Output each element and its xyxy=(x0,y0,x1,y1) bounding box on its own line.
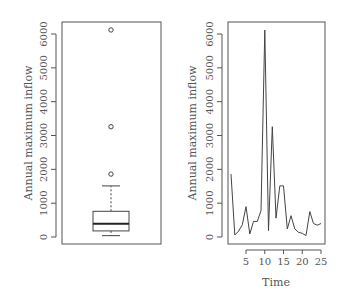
chart-canvas: 0100020003000400050006000 01000200030004… xyxy=(0,0,341,295)
timeseries-panel: 0100020003000400050006000510152025 xyxy=(204,21,327,267)
y-tick-label: 5000 xyxy=(38,55,49,80)
x-tick-label: 15 xyxy=(277,256,290,267)
y-tick-label: 0 xyxy=(204,234,215,240)
y-tick-label: 1000 xyxy=(38,190,49,215)
y-tick-label: 4000 xyxy=(38,89,49,114)
inflow-series-line xyxy=(231,30,321,236)
y-tick-label: 2000 xyxy=(204,157,215,182)
y-tick-label: 0 xyxy=(38,234,49,240)
y-tick-label: 6000 xyxy=(38,21,49,46)
x-tick-label: 10 xyxy=(258,256,271,267)
y-tick-label: 3000 xyxy=(38,123,49,148)
left-y-axis-label: Annual maximum inflow xyxy=(22,65,35,201)
right-y-axis-label: Annual maximum inflow xyxy=(186,65,199,201)
y-tick-label: 6000 xyxy=(204,21,215,46)
x-tick-label: 25 xyxy=(315,256,328,267)
x-tick-label: 20 xyxy=(296,256,309,267)
x-tick-label: 5 xyxy=(243,256,249,267)
boxplot-panel: 0100020003000400050006000 xyxy=(38,21,161,244)
box-iqr xyxy=(93,211,129,231)
y-tick-label: 4000 xyxy=(204,89,215,114)
y-tick-label: 5000 xyxy=(204,55,215,80)
outlier-point xyxy=(109,28,113,32)
y-tick-label: 1000 xyxy=(204,190,215,215)
right-x-axis-label: Time xyxy=(262,276,290,289)
outlier-point xyxy=(109,172,113,176)
y-tick-label: 2000 xyxy=(38,157,49,182)
y-tick-label: 3000 xyxy=(204,123,215,148)
outlier-point xyxy=(109,125,113,129)
